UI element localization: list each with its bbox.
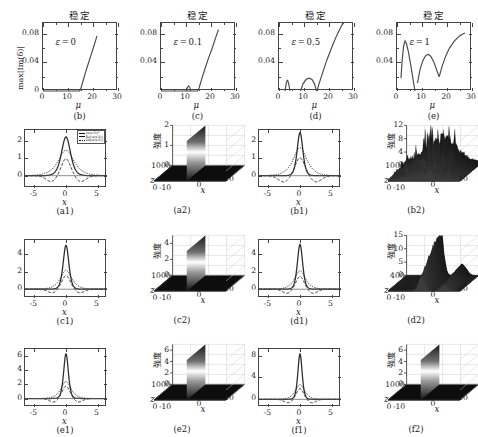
xtick: [279, 88, 280, 92]
panel-b2: 0481210000-10010zx強度(b2): [360, 123, 472, 209]
xtick: [397, 23, 398, 27]
curve: [259, 148, 341, 176]
ytick-minor: [116, 48, 118, 49]
xtick-label: 5: [94, 299, 99, 308]
ytick: [259, 141, 262, 142]
xtick-label: 5: [94, 189, 99, 198]
ytick-label: 0: [251, 393, 256, 402]
axes-d1: [258, 239, 340, 297]
curve: [25, 386, 107, 402]
xtick-label-min: -10: [159, 293, 171, 302]
curve: [301, 78, 317, 91]
xtick: [118, 88, 119, 92]
xtick-minor: [174, 89, 175, 91]
ytick: [259, 399, 262, 400]
xtick: [98, 349, 99, 352]
ytick: [338, 176, 341, 177]
axis-label-x: x: [434, 295, 439, 305]
ytick-label: 0.08: [376, 28, 393, 37]
ytick-label: 0: [251, 283, 256, 292]
panel-e1: -5050246x(e1): [24, 348, 106, 406]
ytick: [25, 399, 28, 400]
ytick-label: 2: [17, 135, 22, 144]
ytick: [104, 289, 107, 290]
caption-a1: (a1): [24, 206, 106, 216]
ytick: [233, 62, 237, 63]
xtick: [66, 130, 67, 133]
xtick-label-min: -10: [393, 293, 405, 302]
caption-b1: (b1): [258, 206, 340, 216]
xlabel-x: x: [62, 197, 67, 207]
ztick-label-zmax: 400: [390, 271, 405, 280]
figure-root: 稳定01020300.040.080max|Im(δ)|με = 0(b)稳定0…: [0, 0, 478, 437]
ytick-minor: [352, 48, 354, 49]
xtick: [34, 130, 35, 133]
axes-e: [396, 22, 471, 90]
ytick: [104, 356, 107, 357]
xtick: [279, 23, 280, 27]
xtick-minor: [460, 23, 461, 25]
ytick: [351, 34, 355, 35]
xtick: [354, 88, 355, 92]
xtick-label: 0: [394, 92, 399, 101]
ytick: [397, 34, 401, 35]
xtick: [329, 23, 330, 27]
xtick-label-max: 10: [224, 174, 234, 183]
intensity-label: 強度: [385, 133, 396, 149]
xtick-label-max: 10: [224, 284, 234, 293]
xtick-minor: [106, 23, 107, 25]
ztick-label: 4: [164, 238, 169, 247]
ytick-minor: [234, 48, 236, 49]
xtick: [43, 88, 44, 92]
xtick-minor: [56, 23, 57, 25]
curve: [259, 385, 341, 400]
curve: [186, 86, 191, 91]
curve: [25, 382, 107, 399]
ytick-label: 1: [17, 152, 22, 161]
xtick-minor: [410, 89, 411, 91]
intensity-label: 強度: [385, 352, 396, 368]
ztick-label: 2: [164, 368, 169, 377]
ytick-minor: [352, 77, 354, 78]
ytick: [25, 158, 28, 159]
xtick: [329, 88, 330, 92]
ytick: [104, 254, 107, 255]
panel-title-b: 稳定: [42, 8, 117, 22]
ytick-minor: [397, 48, 399, 49]
xtick-label-min: -10: [159, 183, 171, 192]
curve: [25, 275, 107, 292]
ytick-label: 0.04: [258, 56, 275, 65]
xtick-minor: [342, 23, 343, 25]
caption-d1: (d1): [258, 316, 340, 326]
xtick-minor: [81, 23, 82, 25]
xtick-label-min: -10: [393, 402, 405, 411]
ytick: [338, 399, 341, 400]
xtick: [43, 23, 44, 27]
axes-b: [42, 22, 117, 90]
curves-f1: [259, 349, 341, 407]
curve: [25, 354, 107, 399]
ytick: [25, 356, 28, 357]
ztick-label: 4: [398, 147, 403, 156]
xtick: [422, 23, 423, 27]
curves-e: [397, 23, 472, 91]
ztick-label-zmax: 1000: [151, 380, 170, 389]
xtick-label: 30: [230, 92, 240, 101]
surface-d2: [360, 233, 472, 319]
curve: [25, 150, 107, 175]
caption-d2: (d2): [360, 315, 472, 325]
xtick: [93, 23, 94, 27]
ytick-label: 4: [17, 248, 22, 257]
legend-label-2: Im[u(x,0)]: [86, 138, 103, 142]
epsilon-annotation-c: ε = 0.1: [174, 37, 203, 47]
intensity-label: 強度: [385, 243, 396, 259]
curve: [259, 158, 341, 182]
xtick: [161, 23, 162, 27]
ytick: [279, 34, 283, 35]
ytick-label: 2: [17, 266, 22, 275]
xtick-label: 20: [323, 92, 333, 101]
axes-c1: [24, 239, 106, 297]
xlabel-mu: μ: [194, 100, 200, 110]
xtick-minor: [342, 89, 343, 91]
panel-e2: 024610000-10010zx強度(e2): [126, 342, 238, 428]
